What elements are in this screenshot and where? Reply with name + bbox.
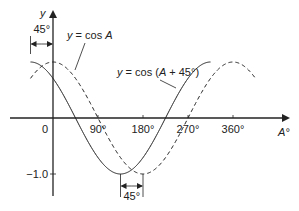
- label-suffix: + 45°): [166, 66, 199, 78]
- x-tick-label: 270°: [177, 123, 200, 135]
- chart: y A° 090°180°270°360°−1.0 y = cos A y = …: [0, 0, 299, 211]
- label-eq: = cos (: [123, 66, 160, 78]
- phase-shift-label-top: 45°: [33, 23, 50, 35]
- phase-shift-label-bottom: 45°: [123, 190, 140, 202]
- x-tick-label: 0: [42, 123, 48, 135]
- label-eq: = cos: [73, 29, 106, 41]
- x-tick-label: 180°: [132, 123, 155, 135]
- leader-line-cos-a: [75, 43, 85, 70]
- leader-line-cos-a-plus-45: [160, 80, 176, 88]
- label-var: A: [104, 29, 112, 41]
- x-axis-label: A°: [277, 126, 290, 138]
- phase-shift-annotation-top: 45°: [31, 23, 53, 54]
- y-tick-label: −1.0: [26, 168, 48, 180]
- phase-shift-annotation-bottom: 45°: [121, 174, 144, 202]
- y-axis-label: y: [39, 7, 47, 19]
- x-tick-label: 360°: [222, 123, 245, 135]
- series-label-cos-a: y = cos A: [66, 29, 113, 41]
- label-var: A: [158, 66, 166, 78]
- series-label-cos-a-plus-45: y = cos (A + 45°): [116, 66, 199, 78]
